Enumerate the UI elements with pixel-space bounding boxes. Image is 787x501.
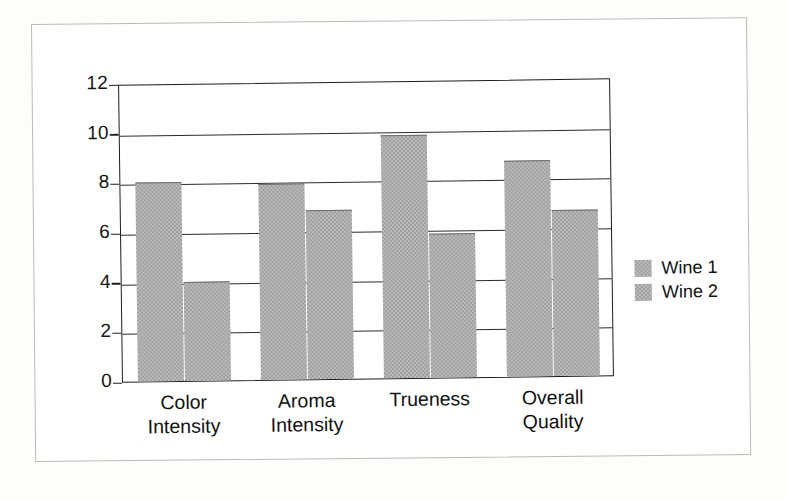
y-tick-label-4: 4 [65, 271, 111, 294]
y-tick-mark-10 [110, 134, 119, 136]
y-tick-label-2: 2 [65, 320, 111, 343]
legend-item-1: Wine 1 [634, 257, 717, 279]
bar-wine-2-group-2 [306, 210, 354, 379]
legend-label-2: Wine 2 [662, 281, 718, 303]
y-tick-mark-12 [109, 84, 118, 86]
y-tick-mark-8 [110, 184, 119, 186]
y-tick-label-0: 0 [66, 370, 112, 393]
y-tick-label-6: 6 [64, 221, 110, 244]
bar-chart-figure: 024681012 Color IntensityAroma Intensity… [0, 0, 787, 501]
y-tick-mark-2 [112, 333, 121, 335]
chart-legend: Wine 1Wine 2 [634, 257, 718, 303]
y-axis-tick-labels: 024681012 [49, 3, 114, 501]
category-label-4: Overall Quality [491, 384, 615, 434]
category-label-1: Color Intensity [122, 389, 246, 439]
y-tick-label-12: 12 [62, 72, 108, 95]
y-tick-label-10: 10 [63, 122, 109, 145]
y-tick-mark-6 [111, 233, 120, 235]
bar-wine-2-group-1 [184, 281, 231, 381]
legend-swatch-icon-1 [634, 260, 651, 277]
y-tick-mark-4 [112, 283, 121, 285]
gridlines [119, 79, 609, 85]
bar-wine-1-group-3 [381, 134, 430, 378]
y-tick-mark-0 [113, 382, 122, 384]
legend-label-1: Wine 1 [661, 257, 717, 279]
bar-wine-2-group-4 [552, 209, 600, 376]
gridline-y-10 [120, 129, 610, 136]
bar-wine-1-group-2 [258, 183, 307, 380]
legend-item-2: Wine 2 [635, 281, 718, 303]
y-tick-label-8: 8 [63, 171, 109, 194]
legend-swatch-icon-2 [635, 284, 652, 301]
bar-wine-1-group-4 [504, 160, 553, 377]
plot-area [118, 78, 614, 382]
bar-wine-2-group-3 [429, 233, 477, 378]
bar-series-container [119, 79, 609, 85]
bar-wine-1-group-1 [135, 182, 184, 381]
category-label-3: Trueness [368, 386, 491, 412]
category-label-2: Aroma Intensity [245, 388, 369, 438]
